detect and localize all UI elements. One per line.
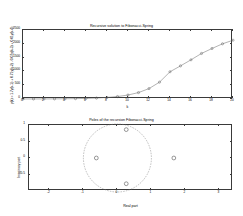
- tick-mark: [218, 188, 219, 190]
- tick-mark: [43, 96, 44, 98]
- tick-mark: [85, 96, 86, 98]
- tick-mark: [230, 174, 232, 175]
- xtick-label: 0: [116, 191, 118, 194]
- matlab-figure-canvas: Recursive solution to Fibonacci-Spring y…: [0, 0, 243, 216]
- tick-mark: [106, 96, 107, 98]
- tick-mark: [230, 124, 232, 125]
- xtick-label: 14: [167, 99, 171, 102]
- tick-mark: [64, 96, 65, 98]
- tick-mark: [230, 57, 232, 58]
- ytick-label: 2000: [2, 41, 20, 44]
- xtick-label: 18: [209, 99, 213, 102]
- unit-circle: [83, 124, 151, 192]
- xtick-label: -1: [81, 191, 84, 194]
- tick-mark: [127, 29, 128, 31]
- tick-mark: [169, 96, 170, 98]
- xtick-label: 12: [146, 99, 150, 102]
- tick-mark: [190, 29, 191, 31]
- tick-mark: [230, 98, 232, 99]
- xtick-label: 2: [42, 99, 44, 102]
- ytick-label: 0: [2, 96, 20, 99]
- tick-mark: [28, 157, 30, 158]
- bottom-plot-title: Poles of the recursion Fibonacci-Spring: [0, 118, 243, 122]
- xtick-label: 20: [230, 99, 234, 102]
- xtick-label: 16: [188, 99, 192, 102]
- top-plot-axes: [22, 29, 232, 98]
- tick-mark: [230, 29, 232, 30]
- top-plot-xlabel: k: [22, 105, 233, 109]
- xtick-label: 1: [150, 191, 152, 194]
- ytick-label: -0.5: [8, 172, 25, 175]
- tick-mark: [22, 98, 24, 99]
- tick-mark: [22, 70, 24, 71]
- tick-mark: [22, 84, 24, 85]
- tick-mark: [232, 29, 233, 31]
- tick-mark: [116, 124, 117, 126]
- tick-mark: [64, 29, 65, 31]
- ytick-label: 500: [2, 82, 20, 85]
- tick-mark: [148, 29, 149, 31]
- pole-marker: [124, 182, 128, 186]
- bottom-plot-axes: [28, 124, 232, 190]
- tick-mark: [150, 188, 151, 190]
- ytick-label: 1000: [2, 69, 20, 72]
- xtick-label: -2: [47, 191, 50, 194]
- tick-mark: [232, 96, 233, 98]
- xtick-label: 8: [105, 99, 107, 102]
- tick-mark: [28, 124, 30, 125]
- tick-mark: [184, 124, 185, 126]
- tick-mark: [116, 188, 117, 190]
- pole-marker: [124, 128, 128, 132]
- tick-mark: [230, 157, 232, 158]
- tick-mark: [230, 84, 232, 85]
- tick-mark: [22, 29, 24, 30]
- tick-mark: [82, 124, 83, 126]
- tick-mark: [22, 43, 24, 44]
- tick-mark: [218, 124, 219, 126]
- tick-mark: [184, 188, 185, 190]
- tick-mark: [82, 188, 83, 190]
- tick-mark: [22, 57, 24, 58]
- ytick-label: 0.5: [8, 139, 25, 142]
- tick-mark: [148, 96, 149, 98]
- tick-mark: [43, 29, 44, 31]
- tick-mark: [28, 174, 30, 175]
- tick-mark: [169, 29, 170, 31]
- ytick-label: 1500: [2, 55, 20, 58]
- recursive-solution-curve: [23, 30, 233, 99]
- bottom-plot-xlabel: Real part: [28, 204, 233, 208]
- tick-mark: [150, 124, 151, 126]
- xtick-label: 3: [218, 191, 220, 194]
- xtick-label: 0: [21, 99, 23, 102]
- tick-mark: [230, 43, 232, 44]
- tick-mark: [230, 141, 232, 142]
- pole-marker: [94, 156, 98, 160]
- xtick-label: 4: [63, 99, 65, 102]
- tick-mark: [28, 141, 30, 142]
- xtick-label: 6: [84, 99, 86, 102]
- pole-marker: [172, 156, 176, 160]
- tick-mark: [211, 96, 212, 98]
- xtick-label: 10: [125, 99, 129, 102]
- tick-mark: [106, 29, 107, 31]
- ytick-label: 0: [8, 155, 25, 158]
- tick-mark: [48, 124, 49, 126]
- top-plot-ylabel: y(k) = 1.7y(k-1) + 0.71y(k-2) - 0.07y(k-…: [11, 27, 15, 104]
- tick-mark: [211, 29, 212, 31]
- tick-mark: [230, 70, 232, 71]
- ytick-label: 2500: [2, 27, 20, 30]
- top-plot-title: Recursive solution to Fibonacci-Spring: [0, 24, 243, 28]
- ytick-label: 1: [8, 122, 25, 125]
- tick-mark: [48, 188, 49, 190]
- pole-zero-plot: [29, 125, 233, 191]
- tick-mark: [127, 96, 128, 98]
- xtick-label: 2: [184, 191, 186, 194]
- tick-mark: [85, 29, 86, 31]
- tick-mark: [190, 96, 191, 98]
